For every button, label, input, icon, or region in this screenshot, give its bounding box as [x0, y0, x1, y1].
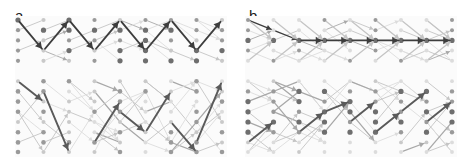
panel-b: b	[232, 0, 465, 165]
panel-a-plot	[0, 0, 232, 165]
figure-container: a b	[0, 0, 465, 165]
panel-a: a	[0, 0, 232, 165]
panel-b-plot	[232, 0, 465, 165]
